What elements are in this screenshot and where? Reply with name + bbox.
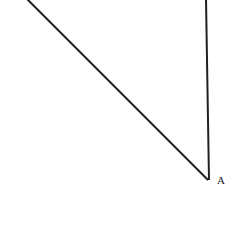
geometry-canvas <box>0 0 237 245</box>
vertex-label-a: A <box>217 175 225 186</box>
figure-background <box>0 0 237 245</box>
geometry-figure: A <box>0 0 237 245</box>
